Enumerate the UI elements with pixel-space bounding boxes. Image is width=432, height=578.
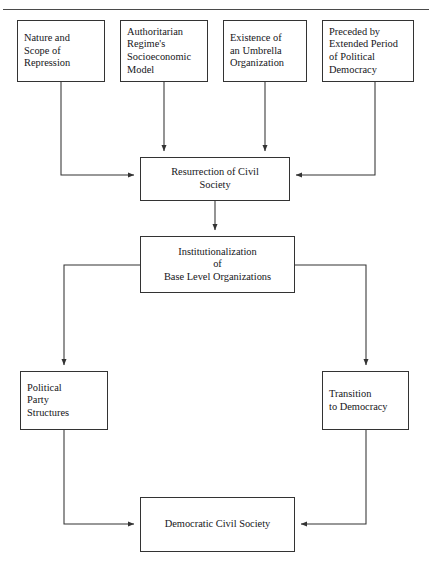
node-label: Political Party Structures	[21, 382, 107, 420]
node-label: Institutionalization of Base Level Organ…	[141, 246, 294, 284]
node-label: Transition to Democracy	[323, 388, 408, 413]
node-transition-to-democracy: Transition to Democracy	[322, 371, 409, 430]
node-label: Democratic Civil Society	[141, 518, 294, 531]
node-political-party-structures: Political Party Structures	[20, 371, 108, 430]
edge-preceded-to-resurrection	[296, 82, 375, 175]
edge-nature-to-resurrection	[61, 82, 134, 175]
flowchart-diagram: Nature and Scope of Repression Authorita…	[0, 0, 432, 578]
node-label: Preceded by Extended Period of Political…	[323, 26, 413, 76]
edge-institutionalization-to-party	[64, 265, 140, 365]
node-nature-scope-repression: Nature and Scope of Repression	[17, 20, 105, 82]
node-label: Nature and Scope of Repression	[18, 32, 104, 70]
node-institutionalization-base-level: Institutionalization of Base Level Organ…	[140, 236, 295, 293]
node-preceded-political-democracy: Preceded by Extended Period of Political…	[322, 20, 414, 82]
node-umbrella-organization: Existence of an Umbrella Organization	[223, 20, 307, 82]
node-label: Authoritarian Regime's Socioeconomic Mod…	[121, 26, 207, 76]
node-democratic-civil-society: Democratic Civil Society	[140, 497, 295, 552]
node-authoritarian-regime-model: Authoritarian Regime's Socioeconomic Mod…	[120, 20, 208, 82]
edge-transition-to-democratic	[301, 430, 366, 524]
node-label: Existence of an Umbrella Organization	[224, 32, 306, 70]
edge-party-to-democratic	[64, 430, 134, 524]
edge-institutionalization-to-transition	[295, 265, 366, 365]
node-resurrection-civil-society: Resurrection of Civil Society	[140, 157, 290, 201]
node-label: Resurrection of Civil Society	[141, 166, 289, 191]
